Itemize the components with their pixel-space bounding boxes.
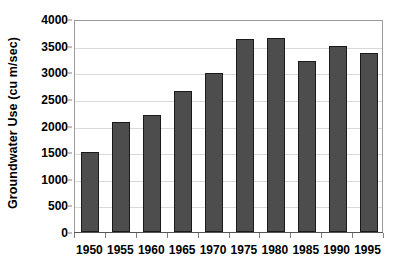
bar: [143, 115, 161, 232]
bar: [81, 152, 99, 232]
x-axis-tick-labels: 1950195519601965197019751980198519901995: [74, 243, 383, 263]
y-axis-tick-label: 1000: [41, 173, 68, 187]
x-axis-tick-mark: [198, 233, 199, 238]
y-axis-tick-label: 2500: [41, 93, 68, 107]
y-axis-tick-labels: 05001000150020002500300035004000: [26, 20, 72, 233]
x-axis-tick-mark: [74, 233, 75, 238]
bar: [360, 53, 378, 232]
x-axis-tick-label: 1975: [231, 243, 258, 257]
bar: [298, 61, 316, 232]
x-axis-tick-mark: [105, 233, 106, 238]
x-axis-tick-label: 1960: [138, 243, 165, 257]
y-axis-tick-label: 2000: [41, 120, 68, 134]
x-axis-tick-mark: [229, 233, 230, 238]
bar: [236, 39, 254, 232]
bar: [205, 73, 223, 232]
y-axis-tick-mark: [68, 20, 72, 21]
y-axis-tick-mark: [68, 99, 72, 100]
x-axis-tick-label: 1995: [354, 243, 381, 257]
y-axis-tick-mark: [68, 73, 72, 74]
x-axis-tick-label: 1980: [261, 243, 288, 257]
y-axis-tick-mark: [68, 46, 72, 47]
x-axis-tick-mark: [352, 233, 353, 238]
x-axis-tick-label: 1955: [107, 243, 134, 257]
y-axis-tick-label: 500: [48, 199, 68, 213]
y-axis-tick-mark: [68, 179, 72, 180]
plot-area: [74, 20, 383, 233]
x-axis-tick-mark: [383, 233, 384, 238]
x-axis-tick-label: 1965: [169, 243, 196, 257]
x-axis-tick-label: 1970: [200, 243, 227, 257]
bar: [267, 38, 285, 232]
y-axis-tick-mark: [68, 233, 72, 234]
x-axis-tick-label: 1990: [323, 243, 350, 257]
x-axis-tick-mark: [259, 233, 260, 238]
y-axis-tick-mark: [68, 153, 72, 154]
x-axis-tick-mark: [136, 233, 137, 238]
bar: [329, 46, 347, 232]
x-axis-tick-mark: [321, 233, 322, 238]
bar: [112, 122, 130, 232]
y-axis-tick-label: 3000: [41, 66, 68, 80]
y-axis-tick-label: 0: [61, 226, 68, 240]
x-axis-tick-marks: [74, 233, 383, 238]
y-axis-tick-mark: [68, 126, 72, 127]
x-axis-tick-label: 1950: [76, 243, 103, 257]
x-axis-tick-label: 1985: [292, 243, 319, 257]
y-axis-tick-label: 3500: [41, 40, 68, 54]
bar: [174, 91, 192, 232]
x-axis-tick-mark: [167, 233, 168, 238]
bar-chart: Groundwater Use (cu m/sec) 0500100015002…: [0, 0, 406, 278]
y-axis-tick-label: 4000: [41, 13, 68, 27]
y-axis-tick-mark: [68, 206, 72, 207]
x-axis-tick-mark: [290, 233, 291, 238]
y-axis-title: Groundwater Use (cu m/sec): [0, 0, 26, 245]
y-axis-title-text: Groundwater Use (cu m/sec): [6, 36, 20, 208]
y-axis-tick-label: 1500: [41, 146, 68, 160]
